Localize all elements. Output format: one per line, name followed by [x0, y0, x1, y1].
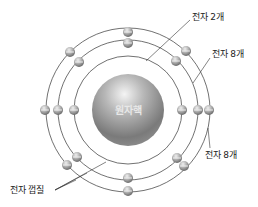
electron: [123, 173, 133, 183]
electron: [53, 105, 63, 115]
leader-shell3: [208, 128, 210, 148]
nucleus-label: 원자핵: [115, 105, 142, 117]
shell3-electron-count-label: 전자 8개: [205, 150, 237, 161]
electron: [193, 105, 203, 115]
electron: [40, 105, 50, 115]
electron: [171, 56, 181, 66]
shell1-electron-count-label: 전자 2개: [192, 12, 224, 23]
electron: [123, 27, 133, 37]
electron: [62, 160, 72, 170]
electron: [123, 186, 133, 196]
electron: [69, 105, 79, 115]
electron: [65, 47, 75, 57]
electron: [204, 105, 214, 115]
shell2-electron-count-label: 전자 8개: [212, 49, 244, 60]
electron-shell-label: 전자 껍질: [10, 185, 44, 196]
electron: [72, 152, 82, 162]
electron: [123, 38, 133, 48]
electron: [177, 105, 187, 115]
electron: [179, 161, 189, 171]
leader-shell-c: [55, 180, 76, 190]
leader-shell2: [193, 58, 210, 83]
atom-diagram: [0, 0, 258, 207]
electron: [172, 153, 182, 163]
electron: [74, 57, 84, 67]
electron: [181, 46, 191, 56]
